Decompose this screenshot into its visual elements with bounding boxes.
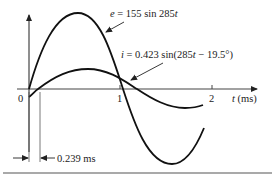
voltage-label-leader: [106, 22, 124, 32]
x-tick-label-1: 1: [117, 93, 122, 104]
phase-shift-label: 0.239 ms: [57, 153, 96, 164]
current-label: i = 0.423 sin(285t − 19.5°): [121, 49, 234, 61]
x-tick-label-0: 0: [18, 93, 23, 104]
voltage-label: e = 155 sin 285t: [110, 8, 179, 19]
x-tick-label-2: 2: [209, 93, 214, 104]
current-label-leader: [131, 63, 163, 80]
waveform-diagram: 0 1 2 t (ms) e = 155 sin 285t i = 0.423 …: [0, 0, 272, 183]
x-axis-label: t (ms): [232, 93, 257, 105]
